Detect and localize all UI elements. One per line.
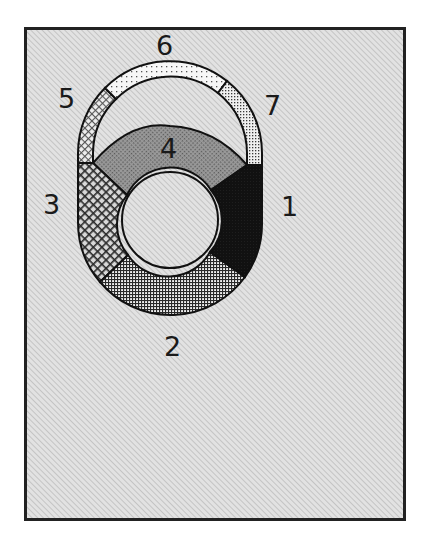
label-3: 3	[43, 189, 60, 220]
segmented-shape-diagram: 1 2 3 4 5 6 7	[0, 0, 428, 540]
center-hole	[122, 172, 218, 268]
label-4: 4	[160, 133, 177, 164]
label-5: 5	[58, 83, 75, 114]
label-2: 2	[164, 331, 181, 362]
label-1: 1	[281, 191, 298, 222]
label-7: 7	[264, 90, 281, 121]
label-6: 6	[156, 30, 173, 61]
